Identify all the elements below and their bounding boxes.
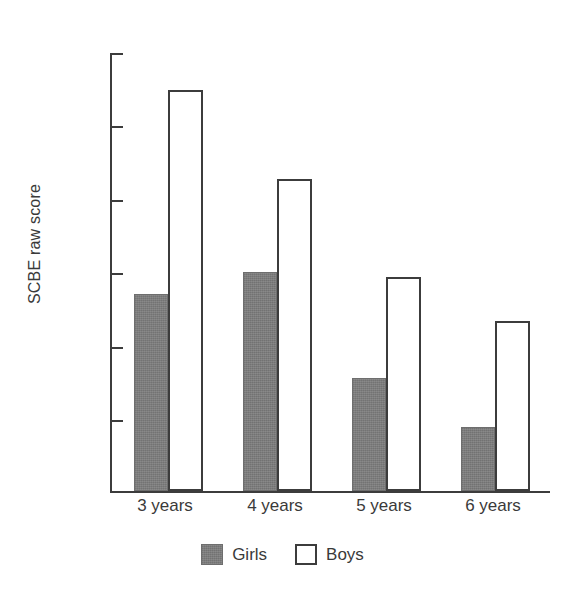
legend-item-boys: Boys [295, 544, 364, 565]
y-tick-mark [112, 491, 123, 493]
bar-chart-figure: SCBE raw score 26 24 22 20 18 16 14 3 ye… [0, 0, 565, 590]
chart-legend: Girls Boys [0, 544, 565, 565]
bar-boys-5-years [386, 277, 421, 491]
bar-boys-6-years [495, 321, 530, 491]
legend-label-boys: Boys [326, 545, 364, 565]
y-tick-mark [112, 126, 123, 128]
y-tick-mark [112, 53, 123, 55]
x-axis-label: 3 years [110, 496, 220, 516]
x-axis-label: 4 years [220, 496, 330, 516]
legend-item-girls: Girls [201, 544, 267, 565]
legend-swatch-boys-icon [295, 544, 317, 565]
bar-girls-4-years [243, 272, 277, 491]
y-tick-mark [112, 420, 123, 422]
x-axis-line [110, 491, 550, 493]
bar-boys-3-years [168, 90, 203, 492]
x-axis-label: 6 years [438, 496, 548, 516]
bar-girls-3-years [134, 294, 168, 491]
bar-girls-6-years [461, 427, 495, 491]
y-tick-mark [112, 273, 123, 275]
y-tick-mark [112, 347, 123, 349]
y-tick-mark [112, 200, 123, 202]
y-axis-title: SCBE raw score [26, 144, 44, 344]
legend-swatch-girls-icon [201, 544, 223, 565]
x-axis-category-labels: 3 years 4 years 5 years 6 years [110, 496, 550, 526]
plot-area [110, 53, 550, 493]
legend-label-girls: Girls [232, 545, 267, 565]
bar-boys-4-years [277, 179, 312, 491]
x-axis-label: 5 years [329, 496, 439, 516]
bar-girls-5-years [352, 378, 386, 491]
